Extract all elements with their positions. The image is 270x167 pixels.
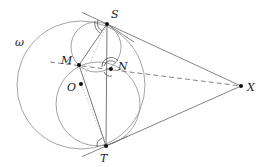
circle-lower	[56, 62, 140, 146]
segment-S-M	[79, 24, 107, 65]
label-N: N	[117, 60, 128, 73]
angle-mark-N-3	[104, 72, 112, 76]
geometry-diagram: ω S M N O X T	[0, 0, 270, 167]
point-M	[77, 63, 81, 67]
label-omega: ω	[15, 36, 24, 49]
point-X	[239, 84, 243, 88]
segment-M-T	[79, 65, 106, 146]
point-N	[109, 67, 113, 71]
point-S	[105, 22, 109, 26]
dotted-segment-S-O	[81, 24, 107, 84]
label-M: M	[60, 54, 73, 67]
label-T: T	[100, 152, 109, 165]
dotted-segment-O-T	[81, 84, 106, 146]
label-S: S	[111, 8, 119, 21]
label-O: O	[67, 81, 76, 94]
tangent-line-S-upper	[107, 24, 134, 42]
point-O	[79, 82, 83, 86]
label-X: X	[246, 81, 256, 94]
segment-S-T	[106, 24, 107, 146]
point-T	[104, 144, 108, 148]
